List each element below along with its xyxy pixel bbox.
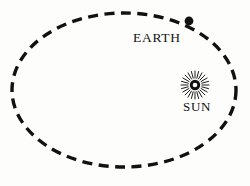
- sun-label: SUN: [183, 100, 211, 113]
- filled-dot-icon: [185, 17, 194, 26]
- sun-starburst-icon: [181, 71, 209, 99]
- dashed-ellipse-icon: [12, 13, 236, 167]
- diagram-canvas: [0, 0, 250, 186]
- orbit-diagram: EARTH SUN: [0, 0, 250, 186]
- earth-label: EARTH: [133, 31, 181, 45]
